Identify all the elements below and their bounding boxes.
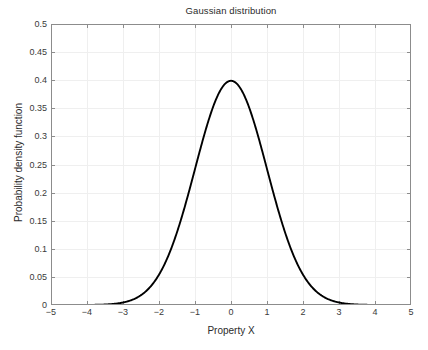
plot-area — [51, 24, 411, 305]
y-tick-label: 0.25 — [29, 160, 47, 170]
y-tick-label: 0.1 — [34, 244, 47, 254]
y-tick-label: 0.05 — [29, 272, 47, 282]
y-tick-label: 0 — [42, 300, 47, 310]
grid-lines-vertical — [88, 24, 376, 305]
x-tick-label: −3 — [118, 307, 128, 317]
y-tick-label: 0.2 — [34, 188, 47, 198]
x-tick-label: 1 — [264, 307, 269, 317]
x-tick-label: −4 — [82, 307, 92, 317]
x-tick-label: 0 — [228, 307, 233, 317]
x-tick-label: −2 — [154, 307, 164, 317]
chart-title: Gaussian distribution — [51, 5, 411, 16]
x-axis-tick-labels: −5−4−3−2−1012345 — [51, 307, 411, 321]
x-tick-label: −1 — [190, 307, 200, 317]
y-tick-label: 0.3 — [34, 131, 47, 141]
x-tick-label: 2 — [300, 307, 305, 317]
x-tick-label: 3 — [336, 307, 341, 317]
plot-svg — [51, 24, 411, 305]
chart-figure: Gaussian distribution −5−4−3−2−1012345 0… — [0, 0, 428, 350]
y-tick-label: 0.5 — [34, 19, 47, 29]
y-tick-label: 0.4 — [34, 75, 47, 85]
x-tick-label: 4 — [372, 307, 377, 317]
y-tick-label: 0.45 — [29, 47, 47, 57]
y-tick-label: 0.35 — [29, 103, 47, 113]
x-tick-label: 5 — [408, 307, 413, 317]
y-tick-label: 0.15 — [29, 216, 47, 226]
x-axis-label: Property X — [51, 325, 411, 336]
y-axis-tick-labels: 00.050.10.150.20.250.30.350.40.450.5 — [0, 24, 47, 305]
y-axis-label: Probability density function — [13, 83, 24, 243]
x-tick-label: −5 — [46, 307, 56, 317]
